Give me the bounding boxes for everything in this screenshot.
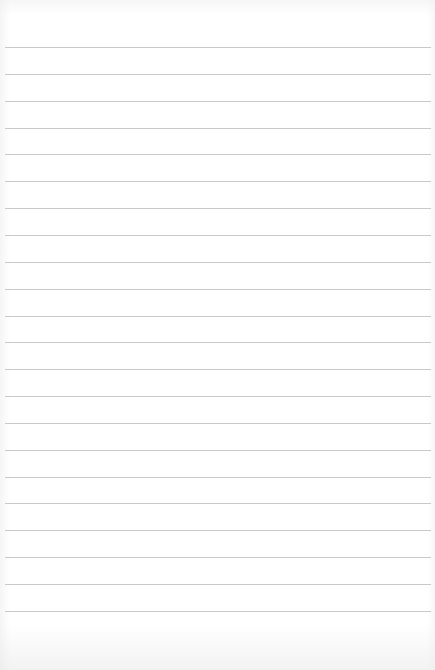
- ruled-line: [5, 396, 431, 397]
- ruled-line: [5, 154, 431, 155]
- ruled-line: [5, 235, 431, 236]
- ruled-line: [5, 477, 431, 478]
- ruled-line: [5, 584, 431, 585]
- ruled-line: [5, 181, 431, 182]
- ruled-line: [5, 369, 431, 370]
- ruled-line: [5, 557, 431, 558]
- ruled-line: [5, 101, 431, 102]
- ruled-line: [5, 450, 431, 451]
- ruled-line: [5, 503, 431, 504]
- ruled-line: [5, 316, 431, 317]
- ruled-line: [5, 47, 431, 48]
- paper-edge-shading-bottom: [0, 625, 435, 670]
- ruled-line: [5, 262, 431, 263]
- ruled-line: [5, 208, 431, 209]
- ruled-line: [5, 74, 431, 75]
- ruled-line: [5, 289, 431, 290]
- ruled-line: [5, 530, 431, 531]
- ruled-line: [5, 128, 431, 129]
- lined-paper-sheet: [0, 0, 435, 670]
- ruled-line: [5, 611, 431, 612]
- ruled-line: [5, 342, 431, 343]
- ruled-lines: [0, 0, 435, 670]
- ruled-line: [5, 423, 431, 424]
